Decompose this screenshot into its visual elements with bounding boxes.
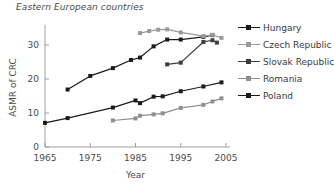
series-romania	[111, 96, 224, 122]
data-point-marker	[165, 27, 169, 31]
y-axis-label: ASMR of CRC	[8, 58, 18, 117]
series-hungary	[66, 33, 215, 91]
data-point-marker	[147, 29, 151, 33]
legend-item-poland[interactable]: Poland	[238, 87, 325, 104]
data-point-marker	[165, 62, 169, 66]
data-point-marker	[201, 34, 205, 38]
data-point-marker	[152, 95, 156, 99]
series-line	[45, 82, 221, 122]
data-point-marker	[201, 103, 205, 107]
data-point-marker	[134, 98, 138, 102]
data-point-marker	[88, 74, 92, 78]
x-axis-label: Year	[125, 170, 145, 180]
data-point-marker	[111, 66, 115, 70]
legend-square-icon	[246, 76, 251, 81]
data-point-marker	[215, 41, 219, 45]
legend-item-czech-republic[interactable]: Czech Republic	[238, 36, 325, 53]
data-point-marker	[219, 80, 223, 84]
data-point-marker	[134, 116, 138, 120]
y-axis-tick-label: 30	[28, 40, 40, 50]
x-axis-tick-label: 1985	[124, 153, 147, 163]
data-point-marker	[156, 28, 160, 32]
x-axis-tick-label: 1975	[79, 153, 102, 163]
data-point-marker	[179, 89, 183, 93]
legend-item-hungary[interactable]: Hungary	[238, 19, 325, 36]
data-point-marker	[152, 44, 156, 48]
data-point-marker	[210, 99, 214, 103]
data-point-marker	[179, 61, 183, 65]
legend-marker-icon	[238, 40, 260, 50]
series-line	[167, 40, 217, 64]
legend-item-slovak-republic[interactable]: Slovak Republic	[238, 53, 325, 70]
data-point-marker	[138, 101, 142, 105]
data-point-marker	[219, 36, 223, 40]
legend-square-icon	[246, 93, 251, 98]
x-axis-tick-label: 1965	[34, 153, 57, 163]
data-point-marker	[111, 118, 115, 122]
data-point-marker	[219, 96, 223, 100]
data-point-marker	[161, 94, 165, 98]
data-point-marker	[201, 40, 205, 44]
series-line	[68, 35, 213, 89]
legend-square-icon	[246, 42, 251, 47]
data-point-marker	[210, 38, 214, 42]
data-point-marker	[66, 116, 70, 120]
legend-marker-icon	[238, 91, 260, 101]
data-point-marker	[138, 56, 142, 60]
data-point-marker	[179, 38, 183, 42]
data-point-marker	[161, 111, 165, 115]
data-point-marker	[111, 106, 115, 110]
data-point-marker	[179, 30, 183, 34]
legend-item-label: Hungary	[263, 23, 301, 33]
y-axis-tick-label: 0	[33, 142, 39, 152]
legend-square-icon	[246, 25, 251, 30]
legend-marker-icon	[238, 74, 260, 84]
chart-legend: HungaryCzech RepublicSlovak RepublicRoma…	[238, 19, 325, 104]
legend-item-label: Czech Republic	[263, 40, 332, 50]
y-axis-tick-label: 10	[28, 108, 40, 118]
legend-marker-icon	[238, 23, 260, 33]
legend-square-icon	[246, 59, 251, 64]
series-line	[113, 98, 222, 120]
legend-marker-icon	[238, 57, 260, 67]
y-axis-tick-label: 20	[28, 74, 40, 84]
data-point-marker	[165, 38, 169, 42]
data-point-marker	[138, 114, 142, 118]
data-point-marker	[43, 121, 47, 125]
data-point-marker	[138, 31, 142, 35]
data-point-marker	[179, 106, 183, 110]
legend-item-label: Poland	[263, 91, 293, 101]
data-point-marker	[129, 58, 133, 62]
series-slovak-republic	[165, 38, 219, 66]
legend-item-label: Romania	[263, 74, 302, 84]
x-axis-tick-label: 2005	[215, 153, 238, 163]
data-point-marker	[152, 112, 156, 116]
x-axis-tick-label: 1995	[169, 153, 192, 163]
legend-item-label: Slovak Republic	[263, 57, 334, 67]
data-point-marker	[201, 84, 205, 88]
legend-item-romania[interactable]: Romania	[238, 70, 325, 87]
data-point-marker	[210, 33, 214, 37]
data-point-marker	[66, 88, 70, 92]
